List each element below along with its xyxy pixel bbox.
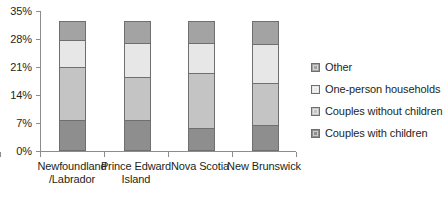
x-tick-mark <box>104 152 105 157</box>
bar-segment-one-person-households[interactable] <box>252 44 279 84</box>
stacked-bar-chart: 35% 28% 21% 14% 7% 0% <box>0 0 446 218</box>
y-axis-label-21: 21% <box>0 62 32 73</box>
bar-segment-couples-without-children[interactable] <box>59 67 86 121</box>
bar-nova-scotia[interactable] <box>188 21 215 151</box>
bar-new-brunswick[interactable] <box>252 21 279 151</box>
bar-segment-one-person-households[interactable] <box>124 43 151 78</box>
y-axis-label-0: 0% <box>0 146 32 157</box>
legend-item-couples-with-children[interactable]: Couples with children <box>311 122 442 144</box>
bar-segment-couples-without-children[interactable] <box>124 77 151 121</box>
category-label-line1: New Brunswick <box>218 160 310 173</box>
bar-segment-couples-with-children[interactable] <box>124 120 151 151</box>
legend-swatch-icon <box>311 107 320 116</box>
x-tick-mark <box>168 152 169 157</box>
x-axis-category-new-brunswick: New Brunswick <box>218 160 310 173</box>
y-axis-label-35: 35% <box>0 6 32 17</box>
legend-item-label: Couples with children <box>325 127 427 139</box>
plot-area <box>40 11 295 151</box>
bar-segment-couples-with-children[interactable] <box>188 128 215 151</box>
bar-newfoundland-labrador[interactable] <box>59 21 86 151</box>
y-axis-label-14: 14% <box>0 90 32 101</box>
legend-item-one-person-households[interactable]: One-person households <box>311 78 442 100</box>
category-label-line2: Island <box>90 173 182 186</box>
bar-segment-one-person-households[interactable] <box>59 40 86 68</box>
legend-item-other[interactable]: Other <box>311 56 442 78</box>
bar-prince-edward-island[interactable] <box>124 21 151 151</box>
x-tick-mark <box>232 152 233 157</box>
bar-segment-other[interactable] <box>252 21 279 45</box>
bar-segment-couples-with-children[interactable] <box>59 120 86 151</box>
legend-item-label: Other <box>325 61 352 73</box>
bar-segment-one-person-households[interactable] <box>188 43 215 74</box>
legend-item-label: Couples without children <box>325 105 442 117</box>
y-axis-label-28: 28% <box>0 34 32 45</box>
bar-segment-couples-with-children[interactable] <box>252 125 279 151</box>
legend: Other One-person households Couples with… <box>311 56 442 144</box>
legend-swatch-icon <box>311 85 320 94</box>
x-tick-mark <box>296 152 297 157</box>
bar-segment-couples-without-children[interactable] <box>252 83 279 126</box>
bar-segment-other[interactable] <box>59 21 86 41</box>
x-tick-mark <box>0 152 1 157</box>
bar-segment-couples-without-children[interactable] <box>188 73 215 129</box>
legend-swatch-icon <box>311 63 320 72</box>
bar-segment-other[interactable] <box>124 21 151 44</box>
legend-item-label: One-person households <box>325 83 440 95</box>
x-tick-mark <box>40 152 41 157</box>
y-axis-label-7: 7% <box>0 118 32 129</box>
legend-item-couples-without-children[interactable]: Couples without children <box>311 100 442 122</box>
bar-segment-other[interactable] <box>188 21 215 44</box>
legend-swatch-icon <box>311 129 320 138</box>
